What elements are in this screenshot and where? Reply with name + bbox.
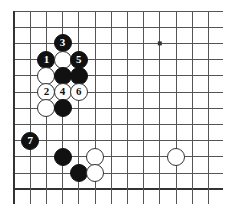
stone-move-number: 3 [60, 37, 66, 48]
stone-move-number: 2 [44, 86, 50, 97]
stone-move-7[interactable]: 7 [21, 132, 39, 150]
stone-white[interactable] [167, 148, 185, 166]
stone-move-number: 1 [44, 54, 50, 65]
stone-move-number: 6 [76, 86, 82, 97]
stone-move-number: 4 [60, 86, 66, 97]
stone-move-3[interactable]: 3 [54, 34, 72, 52]
stone-white[interactable] [86, 164, 104, 182]
stone-move-number: 5 [76, 54, 82, 65]
stone-move-6[interactable]: 6 [70, 83, 88, 101]
go-board-grid[interactable] [0, 0, 237, 222]
stone-white[interactable] [54, 51, 72, 69]
stone-move-number: 7 [27, 135, 33, 146]
stone-move-1[interactable]: 1 [37, 51, 55, 69]
star-point [158, 41, 162, 45]
stone-black[interactable] [54, 148, 72, 166]
stone-move-5[interactable]: 5 [70, 51, 88, 69]
go-diagram: 3152467 [0, 0, 237, 222]
stone-black[interactable] [54, 99, 72, 117]
